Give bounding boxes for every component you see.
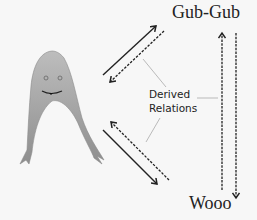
annotation-line-2: Relations — [149, 101, 197, 115]
solid-arrow-to-gubgub — [103, 26, 156, 75]
dashed-arrow-from-wooo — [111, 122, 169, 180]
node-wooo: Wooo — [189, 193, 232, 214]
diagram-canvas — [0, 0, 257, 220]
annotation-line-1: Derived — [149, 87, 197, 101]
annotation-derived-relations: Derived Relations — [149, 87, 197, 115]
pointer-line-lower — [146, 118, 160, 142]
pointer-line-upper — [143, 59, 166, 87]
solid-arrow-to-wooo — [103, 130, 157, 184]
fish-body — [20, 51, 104, 164]
fish-character — [20, 51, 104, 164]
node-gubgub: Gub-Gub — [172, 2, 240, 23]
